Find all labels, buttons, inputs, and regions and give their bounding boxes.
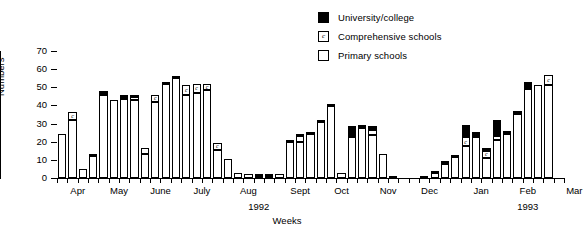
bar-jan-w2	[451, 155, 459, 178]
segment-comprehensive	[120, 97, 128, 99]
segment-university	[482, 148, 490, 151]
segment-university	[441, 161, 449, 164]
segment-comprehensive	[493, 136, 501, 140]
legend-item-comprehensive: c Comprehensive schools	[318, 27, 568, 46]
bar-aug-w5	[265, 175, 273, 178]
y-tick-label: 40	[23, 101, 47, 111]
segment-university	[296, 134, 304, 136]
x-tick-mark	[461, 179, 462, 183]
segment-primary	[441, 164, 449, 179]
comprehensive-c-glyph: c	[194, 85, 200, 91]
bar-oct-w1	[317, 120, 325, 178]
x-tick-mark	[388, 179, 389, 183]
bar-june-w2: c	[151, 95, 159, 178]
bar-feb-w2	[493, 120, 501, 178]
bar-july-w3: c	[203, 84, 211, 178]
segment-comprehensive	[141, 148, 149, 153]
segment-university	[327, 104, 335, 107]
plot-area: ccccccccc	[57, 51, 564, 178]
segment-university	[306, 132, 314, 134]
x-tick-mark	[305, 179, 306, 183]
segment-comprehensive: c	[213, 143, 221, 150]
segment-primary	[162, 84, 170, 178]
segment-primary	[379, 154, 387, 178]
bar-oct-w3	[337, 173, 345, 178]
segment-comprehensive: c	[544, 75, 552, 86]
x-tick-mark	[564, 179, 565, 183]
x-tick-mark	[119, 179, 120, 183]
legend-c-glyph: c	[319, 31, 328, 42]
segment-university	[348, 126, 356, 137]
segment-primary	[255, 176, 263, 178]
x-tick-mark	[243, 179, 244, 183]
bar-apr-w4	[89, 154, 97, 178]
bar-jan-w3: c	[462, 124, 470, 178]
segment-primary	[296, 142, 304, 178]
bar-may-w4	[130, 95, 138, 178]
segment-primary	[544, 85, 552, 178]
x-tick-mark	[192, 179, 193, 183]
segment-primary	[130, 100, 138, 178]
x-tick-mark	[285, 179, 286, 183]
segment-university	[172, 76, 180, 78]
bar-aug-w3	[244, 174, 252, 178]
bar-oct-w2	[327, 104, 335, 178]
segment-primary	[120, 99, 128, 178]
comprehensive-c-glyph: c	[214, 143, 220, 149]
x-tick-mark	[109, 179, 110, 183]
x-axis-month-label: Oct	[334, 185, 349, 196]
segment-primary	[327, 106, 335, 178]
y-tick-label: 10	[23, 155, 47, 165]
x-axis-month-label: Feb	[520, 185, 536, 196]
segment-primary	[493, 140, 501, 178]
x-tick-mark	[409, 179, 410, 183]
segment-university	[368, 126, 376, 130]
bar-mar-w3: c	[544, 75, 552, 178]
bar-sept-w2	[286, 140, 294, 178]
x-tick-mark	[336, 179, 337, 183]
segment-university	[130, 95, 138, 97]
y-tick-label: 60	[23, 65, 47, 75]
bar-apr-w3	[79, 169, 87, 178]
bar-june-w3	[162, 83, 170, 178]
segment-primary	[141, 154, 149, 178]
bar-aug-w2	[234, 173, 242, 178]
bar-jan-w4	[472, 132, 480, 178]
legend-c-swatch-icon: c	[318, 31, 329, 42]
x-axis-year-label: 1993	[517, 201, 538, 212]
x-tick-mark	[492, 179, 493, 183]
x-axis-title: Weeks	[273, 215, 302, 226]
bar-july-w4: c	[213, 143, 221, 178]
x-tick-mark	[543, 179, 544, 183]
segment-primary	[213, 150, 221, 178]
x-tick-mark	[181, 179, 182, 183]
x-tick-mark	[378, 179, 379, 183]
y-tick-label: 20	[23, 137, 47, 147]
x-tick-mark	[129, 179, 130, 183]
segment-comprehensive: c	[482, 151, 490, 158]
x-tick-mark	[419, 179, 420, 183]
x-tick-mark	[316, 179, 317, 183]
segment-university	[99, 91, 107, 95]
segment-primary	[203, 90, 211, 178]
bar-dec-w4	[431, 171, 439, 178]
bar-mar-w2	[534, 85, 542, 178]
segment-primary	[462, 146, 470, 178]
bar-apr-w2: c	[68, 112, 76, 178]
comprehensive-c-glyph: c	[483, 151, 489, 157]
segment-primary	[337, 173, 345, 178]
segment-primary	[224, 159, 232, 178]
segment-comprehensive: c	[68, 112, 76, 120]
x-tick-mark	[440, 179, 441, 183]
bar-may-w2	[110, 100, 118, 178]
bar-may-w3	[120, 96, 128, 178]
segment-primary	[503, 134, 511, 178]
comprehensive-c-glyph: c	[183, 87, 189, 93]
bar-nov-w1	[358, 125, 366, 178]
x-tick-mark	[150, 179, 151, 183]
bar-june-w4	[172, 76, 180, 178]
segment-university	[493, 120, 501, 136]
segment-primary	[513, 114, 521, 178]
bar-aug-w1	[224, 159, 232, 178]
